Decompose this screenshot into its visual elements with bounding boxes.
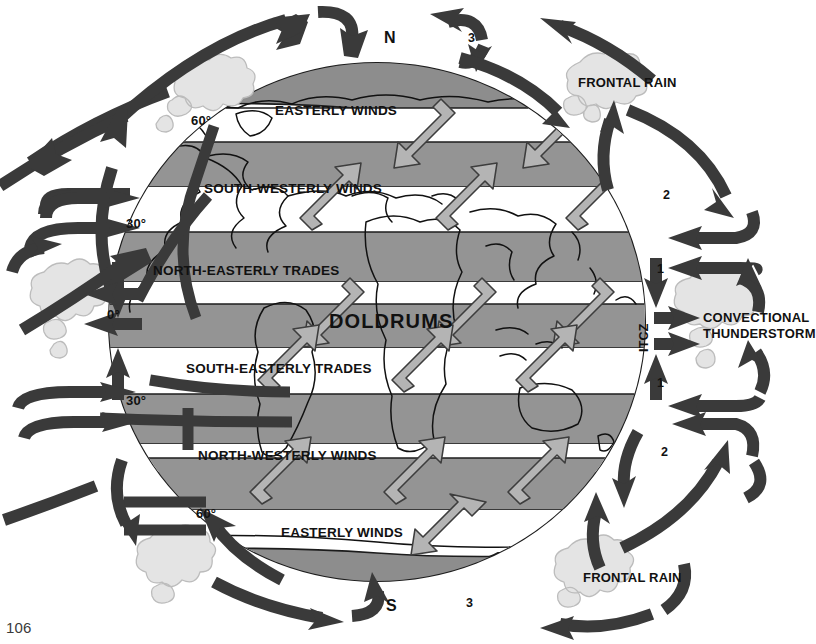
wind-belt-label-n-south-westerlies: SOUTH-WESTERLY WINDS <box>204 182 382 196</box>
latitude-label-equator: 0° <box>107 308 120 321</box>
latitude-label-60s: 60° <box>196 507 216 520</box>
wind-belt-label-n-polar-easterlies: EASTERLY WINDS <box>275 104 397 118</box>
arrow-ferrel-s-right-2 <box>746 462 760 498</box>
arrow-polar-s-right-up <box>702 514 750 596</box>
pole-label-south: S <box>386 598 397 614</box>
cell-number-polar-south: 3 <box>466 597 473 610</box>
cell-number-hadley-south: 1 <box>657 377 664 390</box>
latitude-label-30s: 30° <box>126 394 146 407</box>
arrow-rise-60n-right <box>600 100 624 190</box>
arrow-ferrel-s-right-1 <box>672 412 753 456</box>
arrow-polar-s-left-bottom <box>214 582 344 630</box>
arrow-polar-n-hook-top <box>318 12 368 58</box>
arrow-ferrel-surface-n-right-1 <box>668 212 754 250</box>
wind-belt-label-s-east-trades: SOUTH-EASTERLY TRADES <box>186 362 372 376</box>
itcz-label: ITCZ <box>638 323 651 352</box>
wind-belt-label-n-east-trades: NORTH-EASTERLY TRADES <box>153 264 339 278</box>
pole-label-north: N <box>384 30 396 46</box>
weather-label-frontal-rain-south: FRONTAL RAIN <box>583 571 682 584</box>
cell-number-hadley-north: 1 <box>657 263 664 276</box>
wind-belt-label-doldrums: DOLDRUMS <box>329 311 453 331</box>
weather-label-frontal-rain-north: FRONTAL RAIN <box>578 76 677 89</box>
arrow-descend-60s-right <box>612 432 638 508</box>
wind-belt-label-s-north-westerlies: NORTH-WESTERLY WINDS <box>198 449 377 463</box>
arrow-hadley-s-right-1 <box>668 394 760 418</box>
arrow-polar-s-right-bottom <box>540 614 652 640</box>
cell-number-ferrel-south: 2 <box>661 446 668 459</box>
latitude-label-30n: 30° <box>126 217 146 230</box>
cell-number-polar-north: 3 <box>468 32 475 45</box>
weather-label-thunderstorm-line1: CONVECTIONAL <box>703 310 809 325</box>
cloud-icon-w-equator <box>30 259 109 358</box>
arrow-ferrel-n-right-sweep <box>628 110 734 218</box>
weather-label-thunderstorm-line2: THUNDERSTORM <box>703 326 816 341</box>
cell-number-ferrel-north: 2 <box>663 189 670 202</box>
arrow-ferrel-s-right-sweep <box>622 440 730 548</box>
arrow-ferrel-s-left-out <box>4 486 96 520</box>
arrow-descend-itcz-right-n <box>644 258 668 308</box>
wind-belt-label-s-polar-easterlies: EASTERLY WINDS <box>281 526 403 540</box>
arrow-itcz-rise-right-s <box>644 354 668 400</box>
arrow-hadley-hook-right-s <box>738 340 764 392</box>
cloud-icon-sw <box>136 525 215 603</box>
latitude-label-60n: 60° <box>191 114 211 127</box>
page-number: 106 <box>6 620 32 635</box>
